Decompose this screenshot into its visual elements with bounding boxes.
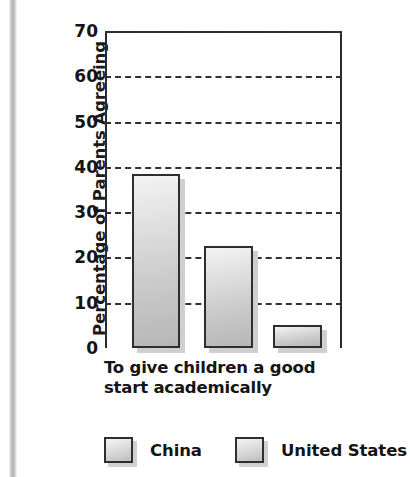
y-tick-label-60: 60 (54, 68, 98, 85)
scan-spine-artifact (9, 0, 17, 477)
legend-label: China (150, 441, 202, 460)
bar-rect (273, 325, 322, 348)
y-tick-label-10: 10 (54, 295, 98, 312)
bar-rect (204, 246, 253, 348)
legend-swatch-rect (104, 437, 133, 463)
y-tick-label-40: 40 (54, 159, 98, 176)
legend-item-united-states[interactable]: United States (235, 437, 407, 463)
y-axis-tick-labels: 706050403020100 (52, 31, 98, 348)
chart-legend: ChinaUnited States (104, 437, 410, 471)
legend-swatch-gray (235, 437, 264, 463)
legend-swatch-rect (235, 437, 264, 463)
plot-area (105, 31, 342, 348)
y-tick-label-70: 70 (54, 23, 98, 40)
bar-series (105, 31, 342, 348)
bar-3 (273, 325, 322, 348)
bar-chart-figure: Percentage of Parents Agreeing 706050403… (0, 0, 410, 477)
x-axis-category-label: To give children a good start academical… (104, 358, 354, 399)
y-tick-label-50: 50 (54, 114, 98, 131)
legend-item-china[interactable]: China (104, 437, 202, 463)
legend-label: United States (281, 441, 407, 460)
bar-1 (132, 174, 180, 348)
y-tick-label-30: 30 (54, 204, 98, 221)
y-tick-label-20: 20 (54, 249, 98, 266)
legend-swatch-gray (104, 437, 133, 463)
x-axis-category-label-line2: start academically (104, 378, 354, 398)
bar-rect (132, 174, 180, 348)
bar-2 (204, 246, 253, 348)
y-tick-label-0: 0 (54, 340, 98, 357)
x-axis-category-label-line1: To give children a good (104, 358, 354, 378)
